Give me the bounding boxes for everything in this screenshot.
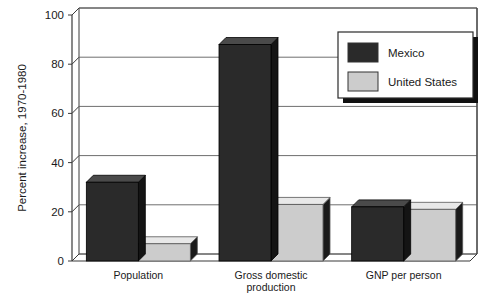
y-tick-label: 60 [51,107,64,119]
gridline-connector [72,254,79,261]
chart-canvas: 020406080100 PopulationGross domesticpro… [0,0,495,300]
y-axis-title: Percent increase, 1970-1980 [16,64,28,212]
y-tick-label: 100 [45,9,64,21]
bar-3d [86,175,145,261]
bar-chart: 020406080100 PopulationGross domesticpro… [0,0,495,300]
gridline-connector [72,156,79,163]
bar-3d [219,38,278,261]
bar-3d [352,200,411,261]
y-tick-label: 0 [58,255,64,267]
y-tick-label: 80 [51,58,64,70]
gridline-connector [72,57,79,64]
bar-3d [138,237,197,261]
legend-swatch [348,43,378,62]
legend-swatch [348,72,378,91]
x-category-label: Gross domestic [235,269,308,281]
legend-label: United States [388,76,457,88]
bar-3d [271,197,330,261]
y-tick-label: 20 [51,206,64,218]
x-category-label: Population [114,269,164,281]
legend-label: Mexico [388,47,424,59]
gridline-connector [72,205,79,212]
x-category-label: production [246,281,295,293]
y-axis-title-text: Percent increase, 1970-1980 [16,64,28,212]
bar-3d [404,202,463,261]
x-category-label: GNP per person [366,269,442,281]
gridline-connector [72,8,79,15]
y-axis-tick-labels: 020406080100 [45,9,72,267]
x-axis-category-labels: PopulationGross domesticproductionGNP pe… [114,269,442,293]
y-tick-label: 40 [51,157,64,169]
chart-legend: MexicoUnited States [338,32,478,103]
gridline-connector [72,106,79,113]
